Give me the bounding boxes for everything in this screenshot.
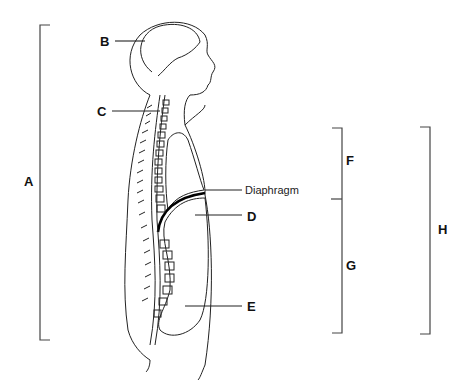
body-outline (125, 22, 215, 380)
label-b: B (100, 34, 109, 49)
label-g: G (346, 258, 356, 273)
spinous-processes (137, 105, 152, 301)
label-a: A (24, 174, 34, 189)
label-h: H (438, 222, 447, 237)
label-diaphragm: Diaphragm (245, 184, 299, 196)
label-e: E (247, 299, 256, 314)
label-c: C (97, 104, 107, 119)
bracket-fg (332, 128, 342, 333)
bracket-a (40, 25, 50, 340)
label-d: D (247, 209, 256, 224)
vertebrae (154, 100, 174, 317)
bracket-h (420, 127, 430, 334)
label-f: F (346, 153, 354, 168)
body-cavities-diagram: A (0, 0, 471, 389)
